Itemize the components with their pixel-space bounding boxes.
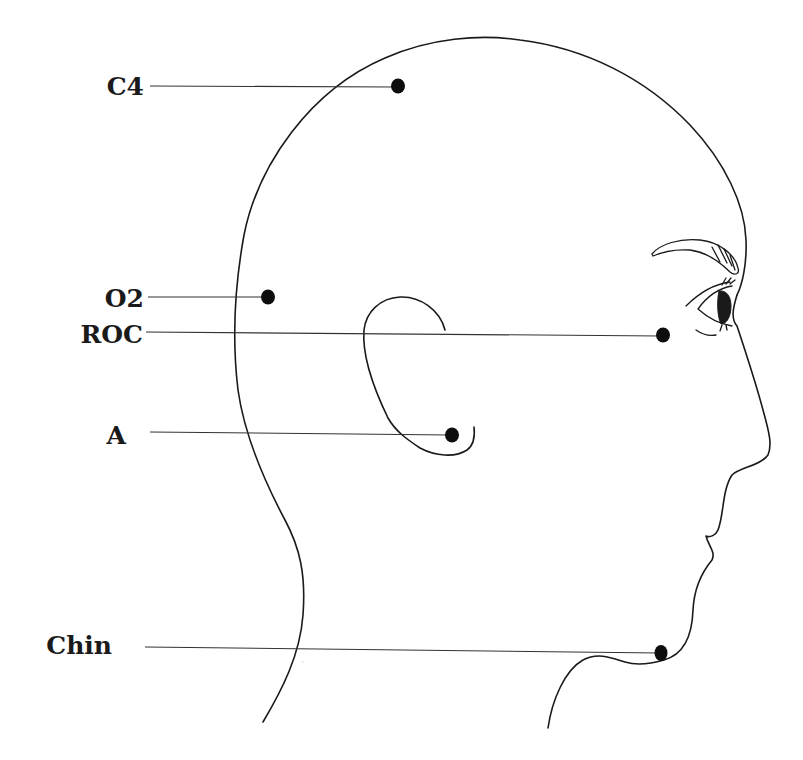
electrode-c4-icon (391, 79, 405, 94)
iris-icon (718, 291, 731, 324)
leader-line-roc (146, 332, 661, 336)
lower-eyelid-icon (696, 330, 716, 335)
electrode-chin-icon (655, 645, 668, 661)
electrode-placement-diagram: C4 O2 ROC A Chin (0, 0, 803, 760)
face-profile-icon (548, 295, 770, 728)
label-o2: O2 (14, 286, 144, 311)
label-roc: ROC (13, 322, 143, 347)
leader-line-a (150, 432, 450, 435)
electrode-o2-icon (261, 290, 275, 305)
label-a: A (0, 423, 126, 448)
label-chin: Chin (0, 633, 112, 658)
leader-line-chin (145, 647, 659, 653)
label-c4: C4 (14, 74, 144, 99)
scan-speck (302, 661, 303, 662)
eyebrow-icon (652, 240, 738, 274)
head-outline-icon (235, 37, 747, 722)
head-profile-drawing (0, 0, 803, 760)
electrode-a-icon (445, 428, 459, 443)
electrode-roc-icon (656, 328, 670, 343)
leader-line-c4 (150, 86, 396, 87)
